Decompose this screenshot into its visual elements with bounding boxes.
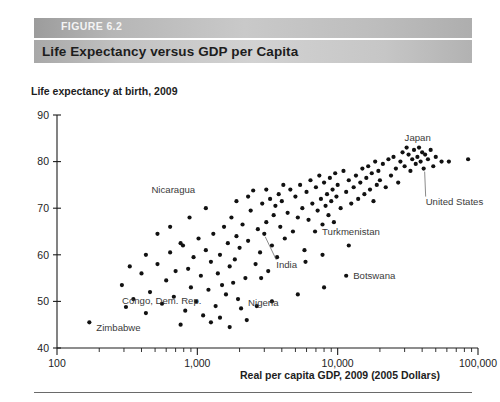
data-point — [296, 215, 300, 219]
data-point — [419, 160, 423, 164]
data-point — [439, 160, 443, 164]
x-tick-label: 1,000 — [184, 357, 210, 369]
annotation-label: Turkmenistan — [322, 226, 380, 237]
data-point — [375, 183, 379, 187]
data-point — [237, 246, 241, 250]
y-tick-label: 40 — [37, 342, 49, 354]
annotation-label: Congo, Dem. Rep. — [122, 295, 201, 306]
data-point — [325, 192, 329, 196]
data-point — [234, 199, 238, 203]
data-point — [328, 176, 332, 180]
data-point — [320, 253, 324, 257]
data-point — [264, 187, 268, 191]
data-point — [179, 241, 183, 245]
data-point — [216, 271, 220, 275]
annotation-label: Nicaragua — [151, 184, 195, 195]
data-point — [356, 197, 360, 201]
data-point — [288, 187, 292, 191]
data-point — [370, 171, 374, 175]
data-point — [412, 148, 416, 152]
data-point — [283, 236, 287, 240]
data-point — [128, 264, 132, 268]
y-tick-label: 80 — [37, 155, 49, 167]
data-point — [431, 164, 435, 168]
data-point — [148, 290, 152, 294]
x-axis-title: Real per capita GDP, 2009 (2005 Dollars) — [240, 369, 440, 381]
data-point — [414, 162, 418, 166]
data-point — [300, 206, 304, 210]
data-point — [293, 194, 297, 198]
data-point — [236, 297, 240, 301]
data-point — [228, 264, 232, 268]
data-point — [447, 160, 451, 164]
data-point — [336, 183, 340, 187]
data-point — [323, 204, 327, 208]
data-point — [334, 194, 338, 198]
data-point — [179, 323, 183, 327]
data-point — [408, 169, 412, 173]
data-point — [319, 197, 323, 201]
y-tick-label: 90 — [37, 109, 49, 121]
data-point — [296, 292, 300, 296]
annotation-label: Japan — [405, 132, 431, 143]
data-point — [264, 220, 268, 224]
scatter-plot: 4050607080901001,00010,000100,000 Zimbab… — [0, 0, 500, 402]
data-point — [234, 234, 238, 238]
data-point — [298, 183, 302, 187]
data-point — [201, 313, 205, 317]
data-point — [310, 201, 314, 205]
data-point — [322, 285, 326, 289]
data-point — [344, 190, 348, 194]
data-point — [347, 243, 351, 247]
annotations-group: ZimbabweCongo, Dem. Rep.NigeriaNicaragua… — [96, 132, 483, 334]
data-point — [281, 183, 285, 187]
annotation-label: United States — [426, 196, 484, 207]
data-point — [196, 236, 200, 240]
data-point — [191, 255, 195, 259]
y-tick-label: 60 — [37, 249, 49, 261]
data-point — [400, 150, 404, 154]
data-point — [218, 253, 222, 257]
data-point — [426, 157, 430, 161]
data-point — [224, 292, 228, 296]
data-point — [262, 232, 266, 236]
x-tick-label: 10,000 — [322, 357, 354, 369]
data-point — [396, 180, 400, 184]
data-point — [268, 197, 272, 201]
data-point — [317, 173, 321, 177]
data-point — [243, 276, 247, 280]
data-point — [302, 248, 306, 252]
annotation-label: India — [276, 259, 297, 270]
data-point — [344, 274, 348, 278]
data-point — [209, 320, 213, 324]
data-point — [204, 206, 208, 210]
y-tick-label: 50 — [37, 295, 49, 307]
data-point — [239, 306, 243, 310]
data-point — [341, 169, 345, 173]
data-point — [273, 204, 277, 208]
data-point — [164, 278, 168, 282]
data-point — [394, 166, 398, 170]
data-point — [246, 194, 250, 198]
data-point — [368, 187, 372, 191]
annotation-label: Zimbabwe — [96, 322, 140, 333]
data-point — [249, 208, 253, 212]
data-point — [339, 206, 343, 210]
data-point — [371, 199, 375, 203]
data-point — [291, 229, 295, 233]
data-point — [187, 215, 191, 219]
x-tick-label: 100 — [48, 357, 66, 369]
data-point — [278, 225, 282, 229]
data-point — [120, 283, 124, 287]
data-point — [253, 262, 257, 266]
data-point — [286, 211, 290, 215]
data-point — [384, 185, 388, 189]
data-point — [306, 218, 310, 222]
data-point — [87, 320, 91, 324]
data-point — [391, 155, 395, 159]
data-point — [209, 260, 213, 264]
data-point — [226, 241, 230, 245]
data-point — [415, 155, 419, 159]
data-point — [220, 283, 224, 287]
data-point — [304, 190, 308, 194]
